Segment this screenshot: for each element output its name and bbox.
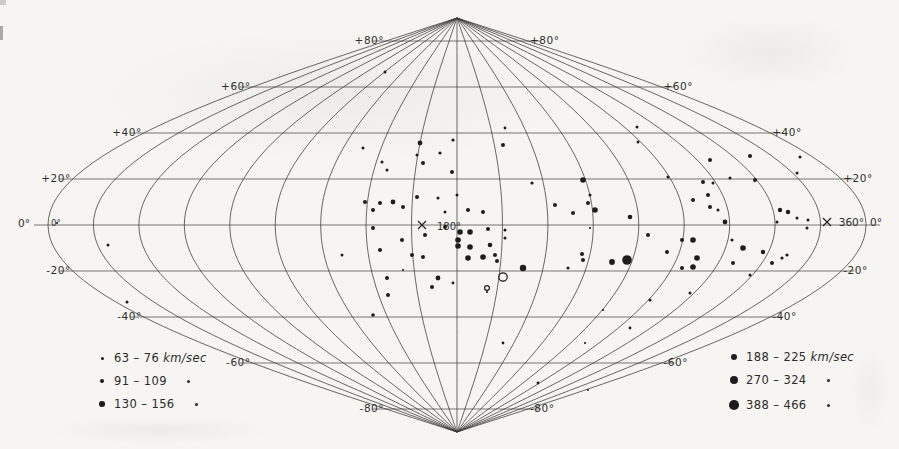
legend-row-188-225: 188 – 225 km/sec [728,350,854,364]
cluster-point [363,200,367,204]
cluster-point [807,219,810,222]
cluster-point [729,177,732,180]
cluster-point [504,127,507,130]
legend-dot-icon [728,400,740,410]
cluster-point [504,237,507,240]
cluster-point [580,177,586,183]
cluster-point [410,253,414,257]
lat-label-left: +40° [112,126,141,138]
cluster-point-open [499,273,507,281]
cluster-point [571,211,575,215]
cluster-point [502,342,505,345]
lon-label-right-360: 360° [839,216,864,228]
cluster-point [391,200,396,205]
lat-label-zero-left: 0° [18,217,30,229]
cluster-point [452,282,455,285]
cluster-point [680,238,684,242]
cluster-point [520,265,526,271]
lat-label-left: -60° [226,356,250,368]
cluster-point [465,255,471,261]
cluster-point [341,254,344,257]
legend-dot-icon [96,357,108,360]
legend-row-388-466: 388 – 466 [728,398,830,412]
legend-unit: km/sec [811,350,855,364]
cluster-point [622,255,632,265]
cluster-point [689,292,692,295]
cluster-point [381,161,384,164]
cluster-point [778,208,782,212]
cluster-point [418,141,423,146]
cluster-point [712,182,715,185]
cluster-point [628,215,633,220]
lat-label-right: +80° [530,34,559,46]
cluster-point [384,71,387,74]
lat-label-right: -80° [530,402,554,414]
lat-label-left: -40° [117,310,141,322]
lat-label-right: -20° [843,264,867,276]
legend-range: 130 – 156 [114,397,175,411]
cluster-point [455,237,461,243]
legend-row-91-109: 91 – 109 [96,374,190,388]
cluster-point [486,291,488,293]
cluster-point-open [485,286,490,291]
cluster-point [402,269,404,271]
cluster-point [708,158,712,162]
cluster-point [371,208,375,212]
scanned-figure: +80°+80°+60°+60°+40°+40°+20°+20°-20°-20°… [0,0,899,449]
cluster-point [761,250,765,254]
cluster-point [488,243,493,248]
cluster-point [443,225,447,229]
lat-label-right: -40° [772,310,796,322]
cluster-point [796,172,799,175]
cluster-point [421,161,425,165]
cluster-point [691,198,695,202]
legend-range: 270 – 324 [746,373,807,387]
cluster-point [504,229,507,232]
cluster-point [717,209,720,212]
cluster-point [723,220,728,225]
cluster-point [602,309,604,311]
scan-mark [0,0,6,5]
cluster-point [609,259,615,265]
cluster-point [740,245,746,251]
lat-label-right: +40° [772,126,801,138]
lat-label-right: +20° [843,172,872,184]
cluster-point [806,227,809,230]
cluster-point [467,244,473,250]
cluster-point [584,342,586,344]
cluster-point [107,244,110,247]
cluster-point [386,169,389,172]
cluster-point [493,253,497,257]
cluster-point [708,205,712,209]
cluster-point [450,170,454,174]
cluster-point [481,210,485,214]
cluster-point [776,221,779,224]
cluster-point [587,389,589,391]
legend-range: 188 – 225 [746,350,807,364]
cluster-point [748,154,752,158]
cluster-point [785,253,788,256]
legend-dot-icon [728,376,740,384]
cluster-point [636,126,639,129]
legend-range: 388 – 466 [746,398,807,412]
cluster-point [690,237,696,243]
cluster-point [362,147,365,150]
scan-mark [0,26,3,40]
lat-label-left: -20° [46,264,70,276]
cluster-point [467,229,473,235]
cluster-point [567,267,570,270]
cluster-point [553,203,557,207]
cluster-point [637,141,640,144]
cluster-point [416,154,419,157]
lat-label-right: +60° [664,80,693,92]
cluster-point [495,259,499,263]
cluster-point [799,156,802,159]
cluster-point [646,233,650,237]
cluster-point [665,250,669,254]
cluster-point [385,276,389,280]
cluster-point [581,258,585,262]
legend-row-130-156: 130 – 156 [96,397,198,411]
cluster-point [749,274,752,277]
cluster-point [56,222,58,224]
legend-range: 63 – 76 [114,351,159,365]
